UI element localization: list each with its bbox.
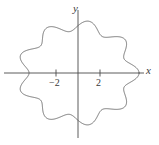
math-figure: y x −2 2 — [0, 0, 159, 145]
x-tick-label-neg2: −2 — [49, 78, 60, 88]
x-axis-label: x — [146, 65, 151, 76]
plot-canvas — [0, 0, 159, 145]
y-axis-label: y — [73, 3, 78, 14]
x-tick-label-pos2: 2 — [96, 78, 101, 88]
